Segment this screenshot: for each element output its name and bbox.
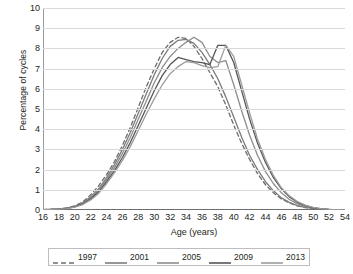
y-tick-label: 3	[24, 145, 40, 154]
gridline	[43, 89, 345, 90]
legend-label-2005: 2005	[182, 253, 201, 262]
y-tick-label: 7	[24, 64, 40, 73]
x-axis-label: Age (years)	[43, 227, 345, 237]
y-tick-label: 1	[24, 185, 40, 194]
legend-swatch-2001	[105, 253, 127, 261]
series-line-2009	[43, 45, 345, 209]
legend-item-2013[interactable]: 2013	[261, 253, 305, 262]
gridline	[43, 28, 345, 29]
gridline	[43, 109, 345, 110]
y-tick-label: 9	[24, 24, 40, 33]
legend-label-1997: 1997	[78, 253, 97, 262]
legend-swatch-1997	[53, 253, 75, 261]
legend-label-2009: 2009	[234, 253, 253, 262]
y-axis-ticks: 012345678910	[22, 0, 40, 274]
legend-item-2009[interactable]: 2009	[209, 253, 253, 262]
y-tick-label: 6	[24, 84, 40, 93]
legend-swatch-2009	[209, 253, 231, 261]
gridline	[43, 170, 345, 171]
legend-swatch-2005	[157, 253, 179, 261]
x-axis-ticks: 1618202224262830323436384042444648505254	[43, 212, 345, 226]
y-tick-label: 2	[24, 165, 40, 174]
y-tick-label: 4	[24, 125, 40, 134]
series-line-2001	[43, 39, 345, 209]
y-tick-label: 5	[24, 105, 40, 114]
gridline	[43, 149, 345, 150]
gridline	[43, 129, 345, 130]
x-tick-label: 54	[334, 212, 353, 223]
plot-area	[43, 8, 345, 210]
legend-label-2001: 2001	[130, 253, 149, 262]
legend-item-2005[interactable]: 2005	[157, 253, 201, 262]
legend-item-2001[interactable]: 2001	[105, 253, 149, 262]
legend-swatch-2013	[261, 253, 283, 261]
gridline	[43, 69, 345, 70]
y-tick-label: 10	[24, 4, 40, 13]
legend-item-1997[interactable]: 1997	[53, 253, 97, 262]
line-chart: Percentage of cycles 012345678910 161820…	[0, 0, 353, 274]
series-line-2013	[43, 45, 345, 209]
y-tick-label: 8	[24, 44, 40, 53]
chart-legend: 19972001200520092013	[48, 248, 310, 266]
legend-label-2013: 2013	[286, 253, 305, 262]
gridline	[43, 8, 345, 9]
gridline	[43, 190, 345, 191]
gridline	[43, 48, 345, 49]
